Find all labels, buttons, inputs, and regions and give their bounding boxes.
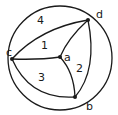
region-label-4: 4	[37, 14, 44, 27]
vertex-b	[73, 95, 77, 99]
vertex-d	[86, 18, 90, 22]
vertex-label-c: c	[6, 46, 12, 59]
edge-d-b	[75, 20, 91, 97]
vertex-a	[58, 55, 62, 59]
region-label-1: 1	[41, 39, 48, 52]
region-label-3: 3	[38, 71, 45, 84]
vertex-label-a: a	[64, 51, 71, 64]
vertex-label-d: d	[96, 8, 103, 21]
region-label-2: 2	[76, 62, 83, 75]
graph-diagram: a b c d 1 2 3 4	[0, 0, 118, 115]
vertex-label-b: b	[86, 100, 93, 113]
edge-c-a	[12, 57, 60, 59]
edge-c-d	[12, 20, 88, 59]
